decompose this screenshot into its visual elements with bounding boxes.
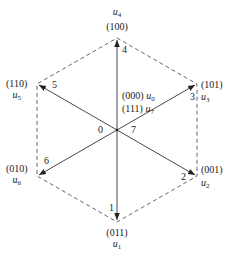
sector-number-bottom: 1 [109,202,114,213]
vector-symbol-lower-left: u6 [13,174,22,189]
vector-arrow-lower-left [39,130,117,175]
vector-code-upper-left: (110) [6,78,27,89]
vector-symbol-top: u4 [113,6,122,21]
label-upper-left: (110) u5 [6,78,27,104]
vector-arrow-lower-right [117,130,195,175]
space-vector-hexagon-diagram [0,0,234,258]
sector-number-lower-right: 2 [181,171,186,182]
label-top: u4 (100) [106,6,128,32]
vector-symbol-upper-right: u3 [201,91,210,106]
vector-arrow-upper-left [39,85,117,130]
vector-code-top: (100) [106,21,128,32]
vector-code-upper-right: (101) [201,79,223,90]
center-label-0: 0 [98,124,103,135]
center-label-7: 7 [131,124,136,135]
sector-number-top: 4 [122,44,127,55]
zero-vector-111: (111) u7 [122,103,154,118]
vector-symbol-upper-left: u5 [12,89,21,104]
sector-number-upper-left: 5 [52,79,57,90]
vector-code-lower-left: (010) [6,163,28,174]
vector-symbol-lower-right: u2 [201,177,210,192]
vector-code-bottom: (011) [106,227,127,238]
sector-number-upper-right: 3 [190,91,195,102]
vector-code-lower-right: (001) [201,164,223,175]
sector-number-lower-left: 6 [44,155,49,166]
origin-point [116,129,119,132]
vector-symbol-bottom: u1 [113,238,122,253]
label-lower-left: (010) u6 [6,163,28,189]
label-bottom: (011) u1 [106,227,127,253]
